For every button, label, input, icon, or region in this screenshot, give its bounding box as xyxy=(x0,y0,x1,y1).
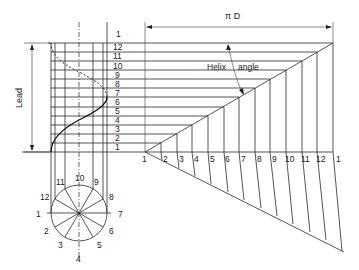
elevation-labels: 1 12 11 10 9 8 7 6 5 4 3 2 1 xyxy=(113,29,123,152)
svg-text:5: 5 xyxy=(210,154,215,164)
svg-text:11: 11 xyxy=(113,51,122,61)
svg-text:1: 1 xyxy=(142,154,147,164)
svg-text:12: 12 xyxy=(316,154,326,164)
svg-text:1: 1 xyxy=(36,209,41,219)
svg-text:12: 12 xyxy=(40,192,50,202)
svg-text:6: 6 xyxy=(225,154,230,164)
svg-text:2: 2 xyxy=(163,154,168,164)
pi-d-label: π D xyxy=(225,11,241,21)
svg-text:7: 7 xyxy=(241,154,246,164)
projector-lines xyxy=(51,22,107,262)
helix-development-diagram: Lead 1 12 11 10 9 8 7 6 5 4 xyxy=(0,0,359,270)
svg-text:8: 8 xyxy=(257,154,262,164)
lead-label: Lead xyxy=(14,88,24,108)
circle-labels: 1 2 3 4 5 6 7 8 9 10 11 12 xyxy=(36,173,123,264)
svg-text:11: 11 xyxy=(301,154,310,164)
svg-text:4: 4 xyxy=(76,254,81,264)
svg-text:10: 10 xyxy=(75,173,85,183)
svg-text:6: 6 xyxy=(109,226,114,236)
svg-text:7: 7 xyxy=(118,209,123,219)
svg-text:1: 1 xyxy=(336,154,341,164)
svg-text:1: 1 xyxy=(115,142,120,152)
svg-text:3: 3 xyxy=(58,240,63,250)
svg-text:1: 1 xyxy=(116,29,121,39)
development-labels: 1 2 3 4 5 6 7 8 9 10 11 12 1 xyxy=(142,154,341,164)
svg-text:angle: angle xyxy=(238,62,259,72)
svg-text:9: 9 xyxy=(272,154,277,164)
development-lower xyxy=(145,152,344,252)
svg-text:4: 4 xyxy=(194,154,199,164)
svg-text:5: 5 xyxy=(97,240,102,250)
svg-text:2: 2 xyxy=(44,226,49,236)
development-upper xyxy=(145,43,333,152)
svg-text:3: 3 xyxy=(179,154,184,164)
lead-dimension: Lead xyxy=(14,43,50,152)
svg-text:8: 8 xyxy=(109,192,114,202)
svg-text:10: 10 xyxy=(285,154,295,164)
svg-text:Helix: Helix xyxy=(207,62,227,72)
svg-text:9: 9 xyxy=(94,177,99,187)
svg-text:11: 11 xyxy=(56,177,65,187)
